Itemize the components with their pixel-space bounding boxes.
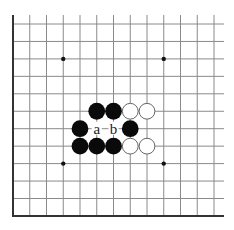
black-stone [72, 138, 89, 155]
star-point-icon [162, 161, 166, 165]
star-point-icon [162, 57, 166, 61]
star-point-icon [61, 161, 65, 165]
black-stone [88, 103, 105, 120]
white-stone [122, 103, 138, 119]
white-stone [122, 138, 138, 154]
black-stone [105, 103, 122, 120]
go-board: ab [0, 0, 234, 230]
white-stone [139, 103, 155, 119]
white-stone [139, 138, 155, 154]
black-stone [88, 138, 105, 155]
black-stone [72, 120, 89, 137]
point-label-a: a [93, 121, 100, 137]
point-label-b: b [110, 121, 118, 137]
black-stone [105, 138, 122, 155]
black-stone [122, 120, 139, 137]
star-point-icon [61, 57, 65, 61]
